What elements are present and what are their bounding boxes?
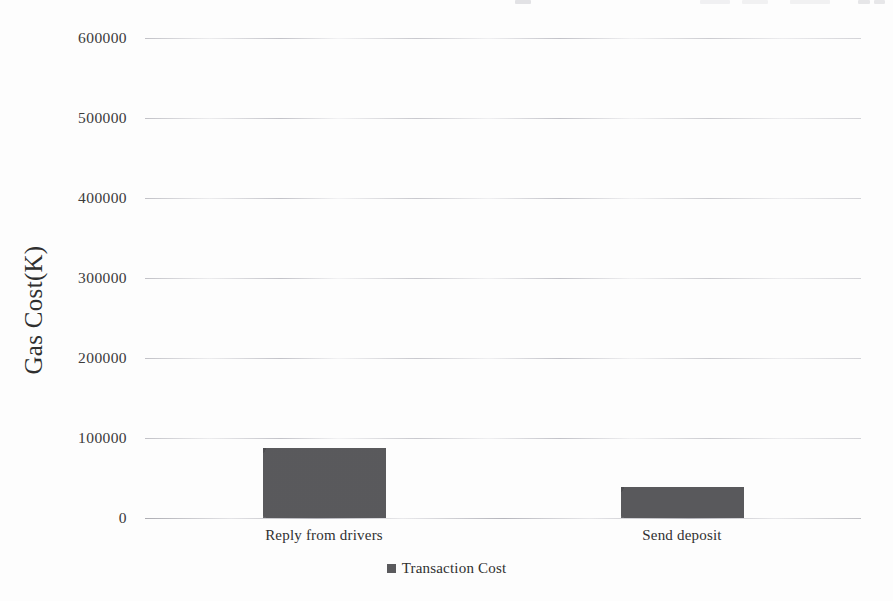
scan-artifact (742, 0, 768, 4)
bar (621, 487, 744, 518)
scan-artifact (858, 0, 870, 4)
gridline (145, 278, 861, 279)
y-axis-tick-label: 0 (119, 509, 127, 527)
legend-item-label: Transaction Cost (402, 560, 507, 577)
y-axis-tick-label: 400000 (78, 189, 127, 207)
axis-baseline (145, 518, 861, 519)
y-axis-tick-label: 200000 (78, 349, 127, 367)
legend-square-marker-icon (387, 564, 396, 573)
y-axis-tick-label: 600000 (78, 29, 127, 47)
chart-legend: Transaction Cost (0, 560, 893, 577)
y-axis-tick-label: 100000 (78, 429, 127, 447)
legend-item-transaction-cost: Transaction Cost (387, 560, 507, 577)
x-axis-tick-label: Send deposit (642, 527, 721, 544)
gridline (145, 118, 861, 119)
y-axis-tick-label: 500000 (78, 109, 127, 127)
gridline (145, 358, 861, 359)
bar-chart-figure: Gas Cost(K) 0100000200000300000400000500… (0, 0, 893, 601)
scan-artifact (700, 0, 730, 4)
scan-artifact (515, 0, 531, 4)
gridline (145, 198, 861, 199)
scan-artifact (790, 0, 830, 4)
gridline (145, 38, 861, 39)
gridline (145, 438, 861, 439)
y-axis-title: Gas Cost(K) (20, 190, 50, 430)
y-axis-tick-label: 300000 (78, 269, 127, 287)
x-axis-tick-label: Reply from drivers (265, 527, 383, 544)
plot-area: 0100000200000300000400000500000600000Rep… (145, 38, 861, 518)
scan-artifact (874, 0, 885, 4)
bar (263, 448, 386, 518)
